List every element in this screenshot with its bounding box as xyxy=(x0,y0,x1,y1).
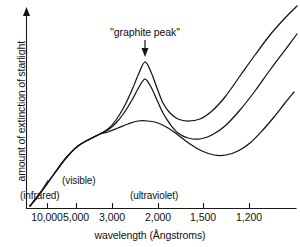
y-axis-arrow-icon xyxy=(23,7,30,16)
x-tick-label: 2,000 xyxy=(145,212,171,223)
annotation-arrow-head xyxy=(142,48,149,57)
extinction-curve-figure: (infrared) (visible) (ultraviolet) ''gra… xyxy=(0,0,300,247)
graphite-peak-annotation-label: ''graphite peak'' xyxy=(110,27,180,38)
x-tick-label: 1,200 xyxy=(236,212,262,223)
x-axis-ticks xyxy=(48,203,250,209)
region-label-visible: (visible) xyxy=(62,176,96,186)
x-tick-label: 3,000 xyxy=(99,212,125,223)
region-label-ultraviolet: (ultraviolet) xyxy=(130,191,178,201)
extinction-curve-weak xyxy=(30,92,294,206)
x-tick-label: 10,000 xyxy=(31,212,63,223)
x-tick-label: 5,000 xyxy=(63,212,89,223)
peak-annotation-arrow xyxy=(142,40,149,57)
x-axis-title: wavelength (Ångstroms) xyxy=(94,230,205,241)
x-tick-label: 1,500 xyxy=(190,212,216,223)
y-axis-title: amount of extinction of starlight xyxy=(16,21,27,201)
